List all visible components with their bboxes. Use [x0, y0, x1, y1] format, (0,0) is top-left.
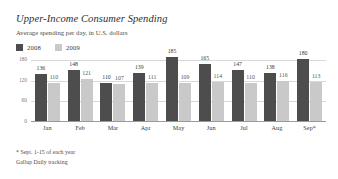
y-axis-tick-label: 0: [24, 119, 27, 124]
x-axis-tick-label: Sep*: [293, 124, 326, 131]
bar-value-label: 148: [69, 62, 78, 68]
bar-2009-Aug: 116: [277, 81, 289, 121]
chart-legend: 20082009: [16, 44, 80, 51]
chart-page: Upper-Income Consumer Spending Average s…: [0, 0, 338, 179]
chart-subtitle: Average spending per day, in U.S. dollar…: [16, 29, 128, 36]
footnotes: * Sept. 1-15 of each yearGallup Daily tr…: [16, 148, 75, 167]
bar-value-label: 138: [266, 65, 275, 71]
bar-2008-Aug: 138: [264, 73, 276, 121]
legend-item: 2009: [55, 44, 80, 51]
bar-2009-Jul: 110: [245, 83, 257, 121]
y-axis-tick-label: 60: [22, 99, 27, 104]
legend-label: 2009: [66, 44, 80, 51]
bar-2008-Jan: 136: [35, 74, 47, 121]
x-axis-tick-label: May: [162, 124, 195, 131]
legend-item: 2008: [16, 44, 41, 51]
bar-group: 148121: [64, 60, 97, 121]
bar-value-label: 139: [135, 65, 144, 71]
bar-group: 138116: [260, 60, 293, 121]
bar-2009-Apr: 111: [146, 83, 158, 121]
bar-value-label: 114: [214, 74, 222, 80]
grid-area: 1361101481211101071391111851091651141471…: [31, 60, 326, 122]
bar-group: 110107: [97, 60, 130, 121]
page-title: Upper-Income Consumer Spending: [16, 13, 168, 24]
bar-2009-Jun: 114: [212, 82, 224, 121]
bar-2008-May: 185: [166, 57, 178, 121]
axis-baseline: [31, 121, 326, 122]
bar-2009-Mar: 107: [113, 84, 125, 121]
bar-value-label: 147: [233, 62, 242, 68]
bar-2008-Feb: 148: [68, 70, 80, 121]
legend-swatch-2008: [16, 44, 23, 51]
bar-value-label: 111: [148, 75, 156, 81]
bar-2008-Sep: 180: [297, 59, 309, 121]
y-axis-tick-label: 120: [19, 78, 27, 83]
bar-2008-Jul: 147: [232, 70, 244, 121]
bar-2008-Apr: 139: [133, 73, 145, 121]
bar-value-label: 121: [82, 71, 91, 77]
bar-value-label: 116: [279, 73, 287, 79]
footnote: * Sept. 1-15 of each year: [16, 148, 75, 158]
x-axis-tick-label: Jul: [228, 124, 261, 131]
x-axis-tick-label: Jan: [31, 124, 64, 131]
x-axis-tick-label: Aug: [260, 124, 293, 131]
x-axis-tick-label: Jun: [195, 124, 228, 131]
bar-value-label: 136: [37, 66, 46, 72]
bar-value-label: 107: [115, 76, 124, 82]
bar-group: 185109: [162, 60, 195, 121]
bar-2008-Jun: 165: [199, 64, 211, 121]
bar-group: 136110: [31, 60, 64, 121]
y-axis-tick-label: 180: [19, 57, 27, 62]
legend-label: 2008: [27, 44, 41, 51]
bar-value-label: 185: [168, 49, 177, 55]
x-axis-tick-label: Apr: [129, 124, 162, 131]
bar-value-label: 165: [200, 56, 209, 62]
bar-value-label: 110: [246, 75, 254, 81]
bar-2009-May: 109: [179, 83, 191, 121]
bar-2009-Sep: 113: [310, 82, 322, 121]
plot-area: 180120600 136110148121110107139111185109…: [16, 60, 326, 130]
x-axis-tick-label: Mar: [97, 124, 130, 131]
bar-group: 165114: [195, 60, 228, 121]
bars-container: 1361101481211101071391111851091651141471…: [31, 60, 326, 121]
bar-value-label: 109: [181, 75, 190, 81]
bar-value-label: 110: [102, 75, 110, 81]
bar-group: 147110: [228, 60, 261, 121]
bar-2009-Feb: 121: [81, 79, 93, 121]
bar-group: 180113: [293, 60, 326, 121]
y-axis: 180120600: [16, 60, 29, 122]
bar-value-label: 113: [312, 74, 320, 80]
x-axis-tick-label: Feb: [64, 124, 97, 131]
legend-swatch-2009: [55, 44, 62, 51]
bar-2009-Jan: 110: [48, 83, 60, 121]
bar-group: 139111: [129, 60, 162, 121]
bar-value-label: 180: [299, 51, 308, 57]
x-axis: JanFebMarAprMayJunJulAugSep*: [31, 124, 326, 131]
bar-2008-Mar: 110: [100, 83, 112, 121]
footnote: Gallup Daily tracking: [16, 158, 75, 168]
bar-value-label: 110: [50, 75, 58, 81]
